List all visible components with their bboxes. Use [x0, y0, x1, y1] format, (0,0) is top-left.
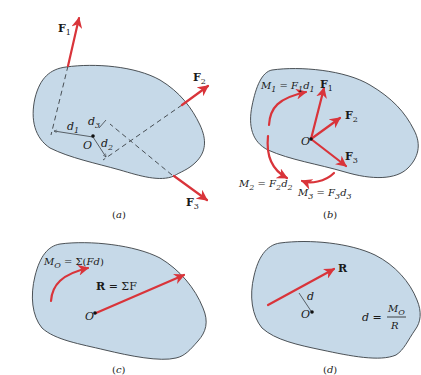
moment-m3-arc	[302, 173, 334, 182]
caption-b: (b)	[323, 209, 337, 220]
caption-a: (a)	[112, 209, 126, 220]
point-o	[310, 310, 314, 314]
label-m3: M3 = F3d3	[297, 187, 352, 201]
panel-c: MO = Σ(Fd) R = ΣF O (c)	[32, 243, 206, 375]
label-o: O	[85, 310, 94, 323]
label-m2: M2 = F2d2	[238, 178, 293, 192]
panel-a: F1 F2 F3 d1 d2 d3 O (a)	[33, 18, 208, 220]
force-f2-arrow	[182, 86, 208, 105]
formula-lhs: d =	[362, 311, 382, 324]
label-r: R	[338, 262, 348, 275]
label-f2: F2	[193, 71, 206, 86]
force-f1-arrow	[68, 18, 79, 66]
force-system-diagram: F1 F2 F3 d1 d2 d3 O (a) F1 F2 F3 O M1 = …	[0, 0, 421, 375]
label-r-equation: R = ΣF	[96, 280, 137, 293]
panel-b: F1 F2 F3 O M1 = F1d1 M2 = F2d2 M3 = F3d3…	[238, 69, 418, 220]
label-f1: F1	[58, 22, 71, 37]
panel-d: R d O d = MO R (d)	[252, 242, 421, 375]
label-d: d	[307, 290, 314, 303]
rigid-body	[33, 65, 204, 178]
point-o	[91, 134, 95, 138]
label-o: O	[301, 135, 310, 148]
caption-c: (c)	[112, 364, 126, 375]
label-f3: F3	[186, 196, 199, 211]
caption-d: (d)	[323, 364, 337, 375]
label-o: O	[83, 139, 92, 152]
formula-denominator: R	[390, 320, 399, 331]
label-o: O	[301, 308, 310, 321]
